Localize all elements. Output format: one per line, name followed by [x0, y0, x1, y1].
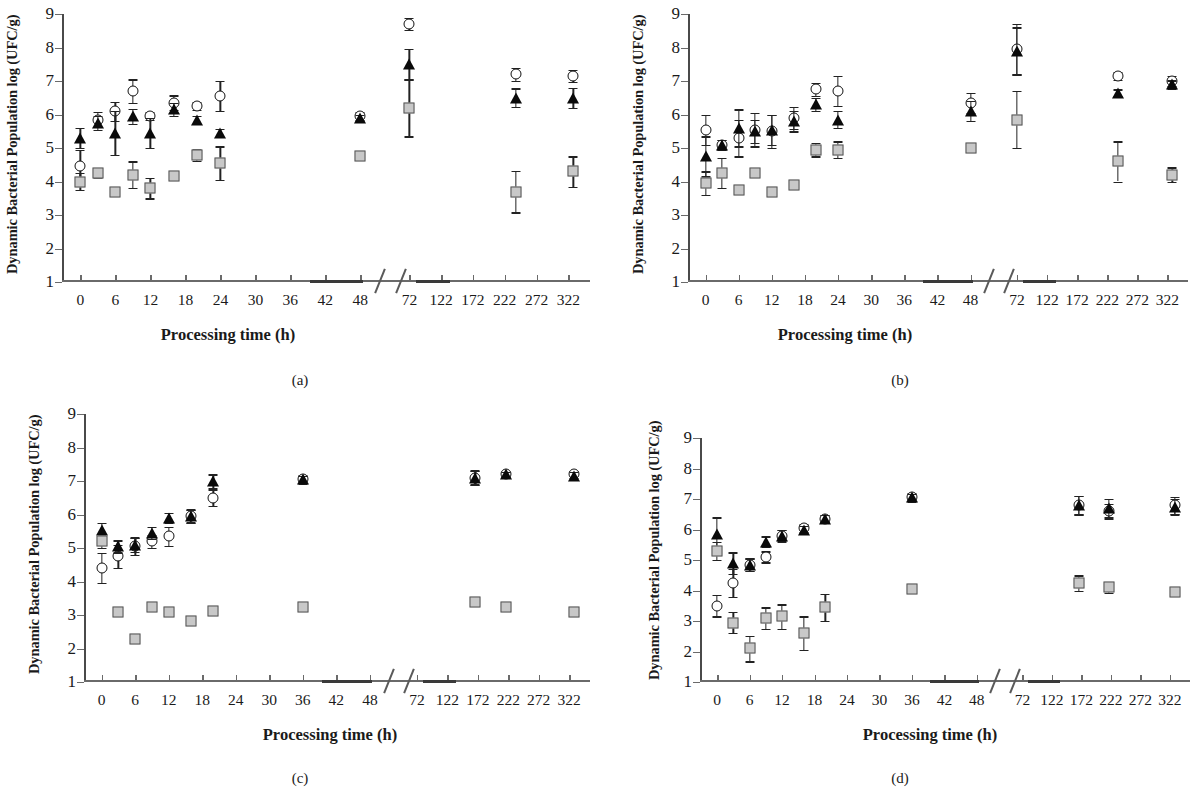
data-point-triangle — [700, 151, 712, 162]
x-tick-label: 18 — [807, 691, 823, 709]
x-tick-label: 30 — [872, 691, 888, 709]
error-bar-cap — [729, 574, 738, 575]
marker-triangle-icon — [810, 99, 822, 110]
x-tick — [772, 275, 773, 282]
x-tick — [478, 675, 479, 682]
y-axis-line — [84, 414, 86, 682]
error-bar-cap — [131, 552, 140, 553]
data-point-triangle — [727, 558, 739, 569]
error-bar-cap — [209, 506, 218, 507]
error-bar-cap — [512, 88, 521, 89]
x-tick — [717, 675, 718, 682]
error-bar-cap — [729, 552, 738, 553]
data-point-triangle — [191, 114, 203, 125]
error-bar-cap — [751, 120, 760, 121]
error-bar-cap — [111, 102, 120, 103]
y-tick — [77, 481, 84, 482]
data-point-square — [113, 606, 124, 617]
error-bar-cap — [569, 187, 578, 188]
error-bar-cap — [745, 636, 754, 637]
error-bar-cap — [1170, 514, 1179, 515]
error-bar-cap — [146, 118, 155, 119]
error-bar-cap — [1168, 182, 1177, 183]
x-tick-label: 172 — [461, 291, 484, 309]
marker-triangle-icon — [744, 559, 756, 570]
x-tick-label: 72 — [402, 291, 418, 309]
x-tick — [1137, 275, 1138, 282]
error-bar-cap — [76, 190, 85, 191]
y-tick — [55, 148, 62, 149]
y-tick-label: 4 — [668, 581, 692, 601]
marker-square-icon — [146, 601, 157, 612]
data-point-triangle — [760, 536, 772, 547]
y-axis-title: Dynamic Bacterial Population log (UFC/g) — [630, 8, 647, 280]
marker-square-icon — [96, 536, 107, 547]
y-tick-label: 7 — [656, 71, 680, 91]
data-point-square — [146, 601, 157, 612]
x-tick-label: 6 — [112, 291, 120, 309]
x-tick — [750, 675, 751, 682]
data-point-circle — [404, 19, 415, 30]
axis-segment — [310, 280, 363, 283]
error-bar-cap — [128, 161, 137, 162]
y-tick-label: 8 — [30, 38, 54, 58]
data-point-square — [355, 151, 366, 162]
data-point-square — [127, 169, 138, 180]
x-tick-label: 48 — [353, 291, 369, 309]
error-bar-cap — [834, 141, 843, 142]
marker-square-icon — [728, 617, 739, 628]
error-bar-cap — [966, 101, 975, 102]
marker-circle-icon — [810, 84, 821, 95]
data-point-circle — [760, 551, 771, 562]
data-point-circle — [700, 124, 711, 135]
marker-triangle-icon — [500, 469, 512, 480]
data-point-square — [700, 178, 711, 189]
marker-triangle-icon — [163, 512, 175, 523]
error-bar-cap — [799, 650, 808, 651]
data-point-square — [569, 606, 580, 617]
data-point-triangle — [716, 139, 728, 150]
data-point-triangle — [749, 126, 761, 137]
marker-square-icon — [568, 166, 579, 177]
data-point-triangle — [74, 132, 86, 143]
y-tick — [55, 115, 62, 116]
marker-square-icon — [113, 606, 124, 617]
marker-triangle-icon — [788, 116, 800, 127]
x-tick-label: 222 — [1099, 691, 1122, 709]
data-point-circle — [511, 69, 522, 80]
x-tick — [409, 275, 410, 282]
marker-triangle-icon — [832, 114, 844, 125]
error-bar-cap — [1104, 519, 1113, 520]
x-axis-title: Processing time (h) — [778, 325, 912, 345]
x-tick — [1167, 275, 1168, 282]
y-tick — [77, 448, 84, 449]
marker-square-icon — [1169, 587, 1180, 598]
x-tick — [115, 275, 116, 282]
error-bar-cap — [1104, 517, 1113, 518]
y-axis-title: Dynamic Bacterial Population log (UFC/g) — [26, 408, 43, 680]
x-tick — [1107, 275, 1108, 282]
marker-triangle-icon — [776, 530, 788, 541]
marker-circle-icon — [511, 69, 522, 80]
x-tick-label: 72 — [1015, 691, 1031, 709]
y-tick-label: 1 — [52, 672, 76, 692]
panel-caption: (b) — [891, 372, 909, 389]
x-tick-label: 24 — [228, 691, 244, 709]
data-point-triangle — [168, 104, 180, 115]
x-tick — [904, 275, 905, 282]
data-point-square — [728, 617, 739, 628]
y-tick-label: 3 — [52, 605, 76, 625]
marker-square-icon — [145, 183, 156, 194]
x-tick-label: 12 — [143, 291, 159, 309]
x-tick-label: 6 — [746, 691, 754, 709]
data-point-triangle — [1073, 500, 1085, 511]
data-point-circle — [568, 70, 579, 81]
y-tick-label: 7 — [52, 471, 76, 491]
error-bar-cap — [193, 161, 202, 162]
data-point-square — [404, 102, 415, 113]
data-point-triangle — [297, 474, 309, 485]
y-tick-label: 5 — [656, 138, 680, 158]
data-point-square — [833, 144, 844, 155]
error-bar-cap — [1013, 27, 1022, 28]
data-point-square — [192, 149, 203, 160]
